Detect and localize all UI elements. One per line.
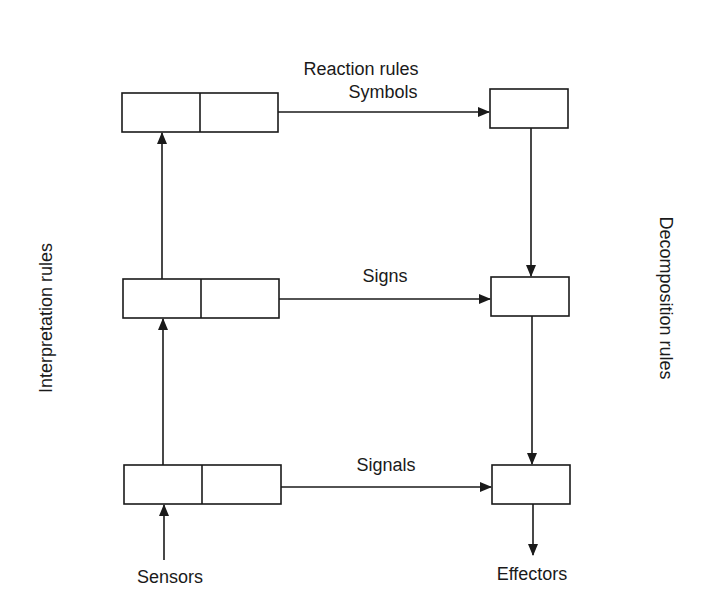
left-box-symbols (122, 93, 278, 132)
left-box-signals (124, 465, 281, 504)
interpretation-rules-label: Interpretation rules (36, 243, 56, 393)
decomposition-rules-label: Decomposition rules (656, 216, 676, 379)
signals-label: Signals (356, 455, 415, 475)
reaction-rules-label: Reaction rules (303, 59, 418, 79)
signs-label: Signs (362, 266, 407, 286)
symbols-label: Symbols (348, 82, 417, 102)
effectors-label: Effectors (497, 564, 568, 584)
left-box-signs (123, 279, 279, 318)
right-box-signs (491, 277, 569, 316)
sensors-label: Sensors (137, 567, 203, 587)
right-box-signals (492, 465, 570, 504)
reactive-architecture-diagram: Reaction rules Interpretation rules Deco… (0, 0, 711, 616)
right-box-symbols (490, 89, 568, 128)
